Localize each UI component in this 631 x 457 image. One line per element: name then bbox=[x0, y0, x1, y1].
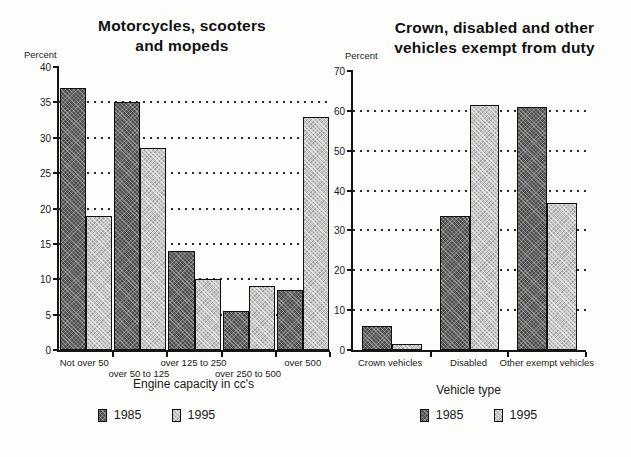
y-tick-mark-40 bbox=[347, 190, 353, 192]
y-tick-mark-20 bbox=[53, 208, 59, 210]
y-tick-mark-15 bbox=[53, 243, 59, 245]
y-tick-mark-50 bbox=[347, 150, 353, 152]
legend-item-1985: 1985 bbox=[98, 408, 142, 422]
y-tick-label-10: 10 bbox=[40, 274, 51, 285]
y-tick-label-60: 60 bbox=[334, 105, 345, 116]
chart-title-line2: vehicles exempt from duty bbox=[360, 38, 629, 58]
y-tick-label-0: 0 bbox=[339, 345, 345, 356]
y-tick-label-40: 40 bbox=[334, 185, 345, 196]
bar-1985 bbox=[277, 290, 303, 350]
y-tick-mark-5 bbox=[53, 314, 59, 316]
y-tick-mark-0 bbox=[53, 349, 59, 351]
chart-title-line1: Motorcycles, scooters bbox=[34, 16, 330, 36]
bar-1985 bbox=[440, 216, 470, 350]
legend-label-1995: 1995 bbox=[188, 408, 216, 422]
legend-label-1985: 1985 bbox=[114, 408, 142, 422]
bar-1985 bbox=[362, 326, 392, 350]
y-tick-mark-60 bbox=[347, 110, 353, 112]
plot-area: 010203040506070 bbox=[351, 71, 586, 352]
bar-1985 bbox=[168, 251, 194, 350]
y-tick-mark-70 bbox=[347, 70, 353, 72]
bar-1995 bbox=[303, 117, 329, 350]
bar-1995 bbox=[195, 279, 221, 350]
chart-title-line2: and mopeds bbox=[34, 36, 330, 56]
x-tick-mark bbox=[329, 352, 331, 357]
y-tick-label-20: 20 bbox=[40, 203, 51, 214]
bar-group bbox=[113, 67, 167, 350]
y-tick-mark-35 bbox=[53, 101, 59, 103]
y-axis-unit-label: Percent bbox=[24, 49, 57, 60]
bar-1995 bbox=[392, 344, 422, 350]
x-tick-mark bbox=[430, 352, 432, 357]
legend-swatch-1985 bbox=[420, 409, 429, 422]
y-tick-label-35: 35 bbox=[40, 97, 51, 108]
y-tick-label-5: 5 bbox=[45, 309, 51, 320]
bars-layer bbox=[353, 71, 586, 350]
chart-title: Motorcycles, scooters and mopeds bbox=[34, 16, 330, 56]
category-label: Not over 50 bbox=[60, 357, 109, 368]
bar-1985 bbox=[223, 311, 249, 350]
bar-1985 bbox=[114, 102, 140, 350]
y-tick-mark-30 bbox=[53, 137, 59, 139]
bar-1995 bbox=[86, 216, 112, 350]
x-tick-mark bbox=[585, 352, 587, 357]
y-tick-mark-0 bbox=[347, 349, 353, 351]
legend: 1985 1995 bbox=[361, 408, 596, 422]
legend-swatch-1985 bbox=[98, 409, 107, 422]
legend-item-1995: 1995 bbox=[172, 408, 216, 422]
legend-item-1995: 1995 bbox=[494, 408, 538, 422]
y-tick-mark-30 bbox=[347, 229, 353, 231]
bar-1995 bbox=[547, 203, 577, 350]
y-tick-label-30: 30 bbox=[40, 132, 51, 143]
legend: 1985 1995 bbox=[20, 408, 293, 422]
category-labels-row: Crown vehiclesDisabledOther exempt vehic… bbox=[351, 355, 586, 383]
legend-label-1995: 1995 bbox=[510, 408, 538, 422]
category-label: over 500 bbox=[284, 357, 321, 368]
category-label: over 125 to 250 bbox=[160, 357, 226, 368]
bar-group bbox=[276, 67, 330, 350]
x-tick-mark bbox=[112, 352, 114, 357]
y-tick-mark-25 bbox=[53, 172, 59, 174]
chart-title: Crown, disabled and other vehicles exemp… bbox=[360, 18, 629, 58]
y-axis-unit-label: Percent bbox=[345, 50, 378, 61]
bar-group bbox=[431, 71, 509, 350]
bar-1995 bbox=[249, 286, 275, 350]
y-tick-label-20: 20 bbox=[334, 265, 345, 276]
y-tick-label-0: 0 bbox=[45, 345, 51, 356]
bar-group bbox=[353, 71, 431, 350]
bar-group bbox=[508, 71, 586, 350]
category-label: Other exempt vehicles bbox=[500, 357, 595, 368]
y-tick-mark-20 bbox=[347, 269, 353, 271]
y-tick-mark-10 bbox=[53, 278, 59, 280]
x-tick-mark bbox=[166, 352, 168, 357]
x-tick-mark bbox=[275, 352, 277, 357]
bars-layer bbox=[59, 67, 330, 350]
bar-1985 bbox=[517, 107, 547, 350]
x-axis-label: Engine capacity in cc's bbox=[57, 377, 330, 391]
figure-canvas: Motorcycles, scooters and mopeds Percent… bbox=[0, 0, 631, 457]
y-tick-label-15: 15 bbox=[40, 238, 51, 249]
chart-title-line1: Crown, disabled and other bbox=[360, 18, 629, 38]
category-label: Crown vehicles bbox=[358, 357, 422, 368]
y-tick-label-50: 50 bbox=[334, 145, 345, 156]
chart-panel-exempt-vehicles: Crown, disabled and other vehicles exemp… bbox=[334, 0, 631, 457]
y-tick-mark-40 bbox=[53, 66, 59, 68]
bar-group bbox=[167, 67, 221, 350]
x-tick-mark bbox=[507, 352, 509, 357]
bar-group bbox=[59, 67, 113, 350]
legend-item-1985: 1985 bbox=[420, 408, 464, 422]
y-tick-mark-10 bbox=[347, 309, 353, 311]
legend-swatch-1995 bbox=[494, 409, 503, 422]
y-tick-label-70: 70 bbox=[334, 66, 345, 77]
bar-1995 bbox=[470, 105, 500, 350]
x-tick-mark bbox=[221, 352, 223, 357]
x-axis-label: Vehicle type bbox=[351, 383, 586, 397]
bar-1985 bbox=[60, 88, 86, 350]
legend-label-1985: 1985 bbox=[436, 408, 464, 422]
y-tick-label-30: 30 bbox=[334, 225, 345, 236]
legend-swatch-1995 bbox=[172, 409, 181, 422]
plot-area: 0510152025303540 bbox=[57, 67, 330, 352]
bar-group bbox=[222, 67, 276, 350]
chart-panel-motorcycles: Motorcycles, scooters and mopeds Percent… bbox=[0, 0, 334, 457]
bar-1995 bbox=[140, 148, 166, 350]
